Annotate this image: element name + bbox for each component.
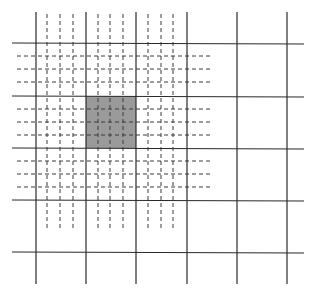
grid-diagram (0, 0, 310, 298)
